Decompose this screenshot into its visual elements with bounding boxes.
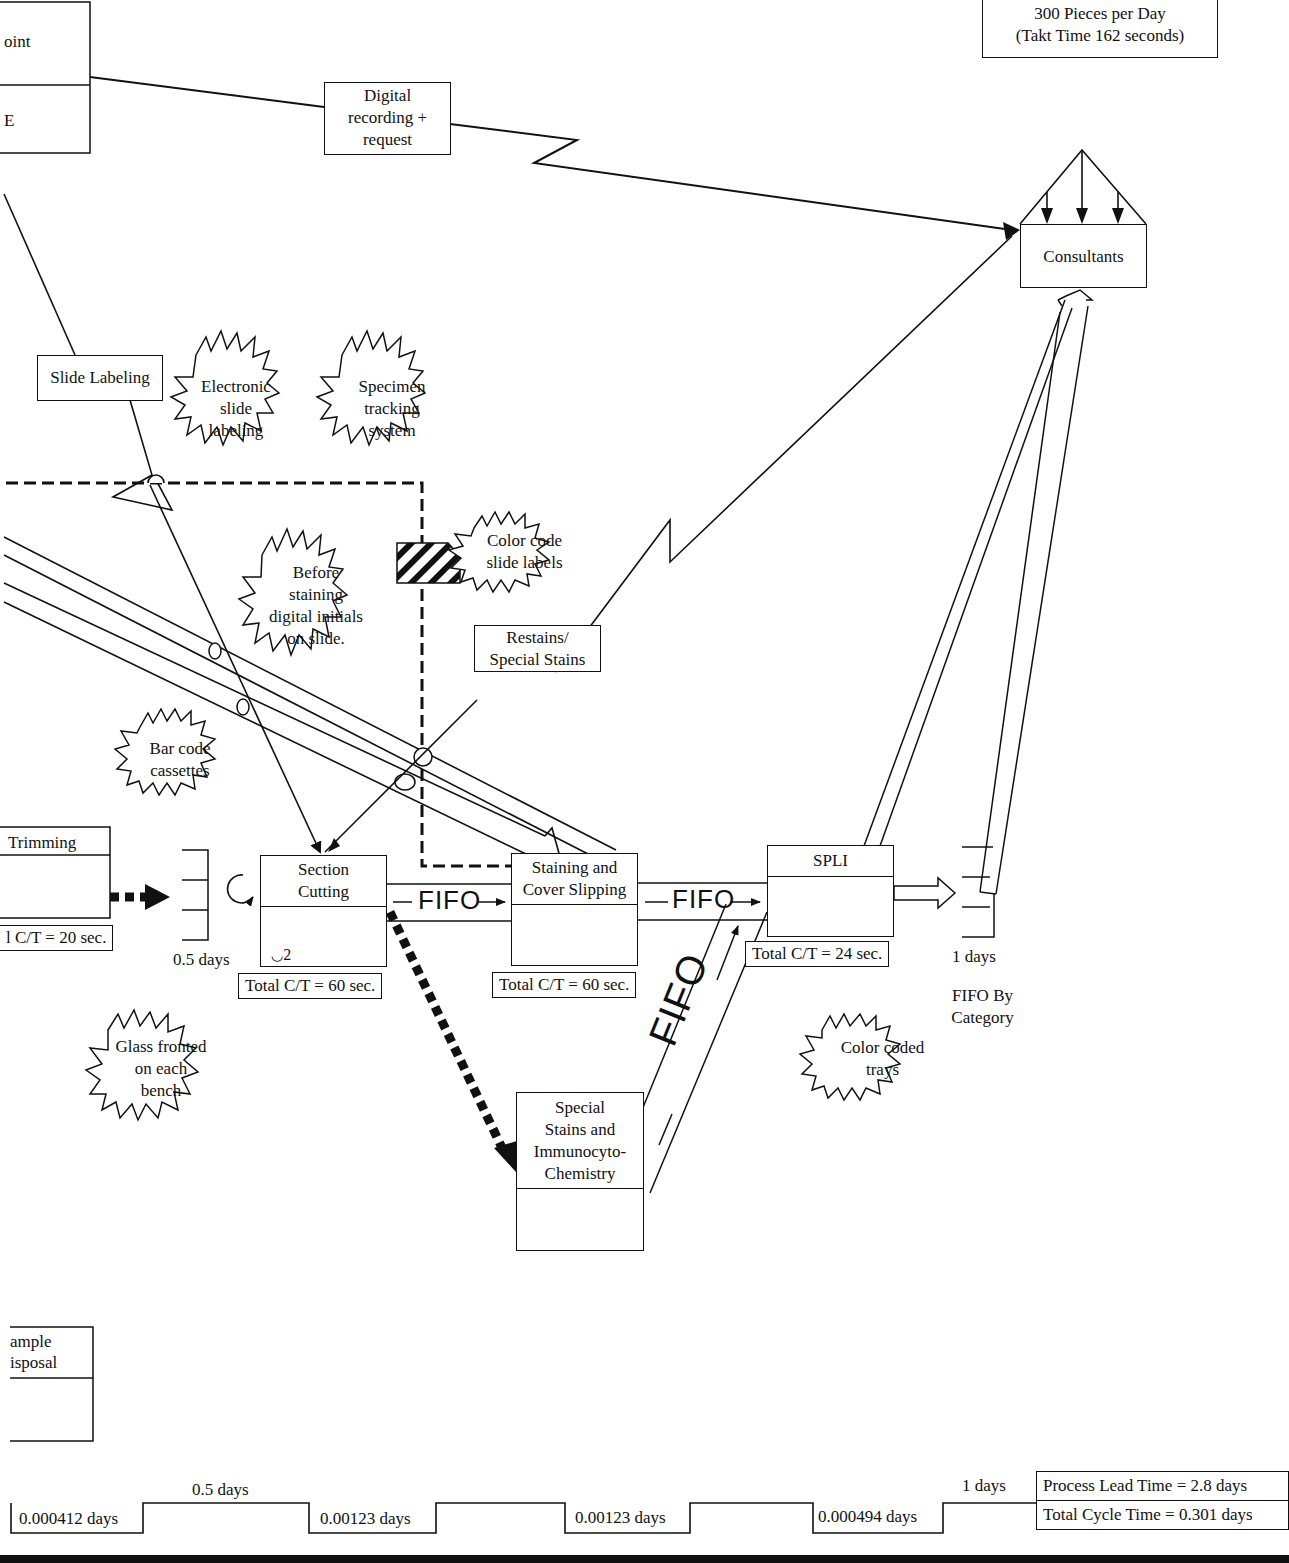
kaizen-line: on slide.	[256, 628, 376, 650]
kaizen-line: system	[352, 420, 432, 442]
timeline-cycle-2: 0.00123 days	[320, 1509, 411, 1529]
partial-box-bottom-label: E	[4, 110, 14, 132]
process-header: Staining and Cover Slipping	[512, 854, 637, 905]
process-staining[interactable]: Staining and Cover Slipping	[511, 853, 638, 966]
kaizen-line: slide	[196, 398, 276, 420]
manual-info-flow-dashed	[6, 483, 515, 866]
restains-line1: Restains/	[475, 627, 600, 649]
kaizen-electronic-slide-labeling: Electronic slide labeling	[196, 376, 276, 442]
process-spli[interactable]: SPLI	[767, 845, 894, 937]
process-title-line3: Immunocyto-	[534, 1141, 627, 1163]
electronic-info-flow-digital	[90, 77, 1012, 230]
process-lead-time: Process Lead Time = 2.8 days	[1037, 1472, 1288, 1500]
inventory-section-cutting: 0.5 days	[173, 950, 230, 970]
roof-arrowheads	[1041, 208, 1124, 224]
timeline-lead-1: 0.5 days	[192, 1480, 249, 1500]
kaizen-line: Color coded	[830, 1037, 935, 1059]
note-line2: Category	[935, 1007, 1030, 1029]
supermarket-shelf-2	[962, 847, 994, 937]
slide-labeling-label: Slide Labeling	[38, 367, 162, 389]
kaizen-line: Specimen	[352, 376, 432, 398]
timeline-cycle-4: 0.000494 days	[818, 1507, 917, 1527]
process-title-line2: Stains and	[545, 1119, 615, 1141]
sample-disposal-line2: isposal	[10, 1352, 57, 1374]
restains-line2: Special Stains	[475, 649, 600, 671]
kaizen-glass-fronted: Glass fronted on each bench	[106, 1036, 216, 1102]
kaizen-color-code-slide-labels: Color code slide labels	[477, 530, 572, 574]
arrowhead-section-cutting	[328, 838, 340, 852]
restains-box[interactable]: Restains/ Special Stains	[474, 625, 601, 672]
process-title-line4: Chemistry	[545, 1163, 616, 1185]
process-title-line1: Section	[298, 859, 349, 881]
section-cutting-cycle-time: Total C/T = 60 sec.	[238, 973, 382, 999]
process-section-cutting[interactable]: Section Cutting ◡2	[260, 855, 387, 967]
operator-icon: ◡2	[271, 946, 291, 964]
kaizen-color-coded-trays: Color coded trays	[830, 1037, 935, 1081]
digital-recording-line2: recording +	[325, 107, 450, 129]
kaizen-line: Color code	[477, 530, 572, 552]
staining-cycle-time: Total C/T = 60 sec.	[492, 972, 636, 998]
kaizen-line: Electronic	[196, 376, 276, 398]
fifo-label-1: FIFO	[418, 885, 481, 916]
partial-box-top-label: oint	[4, 31, 30, 53]
process-header: SPLI	[768, 846, 893, 877]
kaizen-line: bench	[106, 1080, 216, 1102]
total-cycle-time: Total Cycle Time = 0.301 days	[1037, 1500, 1288, 1529]
process-header: Section Cutting	[261, 856, 386, 907]
fifo-label-2: FIFO	[672, 884, 735, 915]
push-arrow-spli-to-consultants	[864, 290, 1092, 894]
operator-count: 2	[283, 946, 291, 963]
consultants-box[interactable]: Consultants	[1020, 224, 1147, 288]
page-bottom-rule	[0, 1555, 1289, 1563]
note-line1: FIFO By	[935, 985, 1030, 1007]
process-title-line1: Staining and	[532, 857, 617, 879]
timeline-lead-2: 1 days	[962, 1476, 1006, 1496]
inventory-after-spli: 1 days	[952, 947, 996, 967]
process-title-line2: Cover Slipping	[523, 879, 626, 901]
kaizen-line: Glass fronted	[106, 1036, 216, 1058]
push-arrow-dotted-trimming	[110, 884, 170, 910]
supermarket-shelf-1	[182, 850, 208, 940]
kaizen-line: Bar code	[140, 738, 220, 760]
timeline-cycle-1: 0.000412 days	[19, 1509, 118, 1529]
push-arrow-dotted-special	[390, 912, 520, 1172]
push-arrow-spli	[894, 878, 955, 908]
slide-labeling-box[interactable]: Slide Labeling	[37, 355, 163, 401]
digital-recording-box[interactable]: Digital recording + request	[324, 82, 451, 155]
spli-cycle-time: Total C/T = 24 sec.	[745, 941, 889, 967]
trimming-label: Trimming	[8, 832, 76, 854]
kaizen-line: staining	[256, 584, 376, 606]
takt-time: (Takt Time 162 seconds)	[983, 25, 1217, 47]
process-title-line1: Special	[555, 1097, 605, 1119]
kaizen-line: digital initials	[256, 606, 376, 628]
kaizen-before-staining: Before staining digital initials on slid…	[256, 562, 376, 650]
kaizen-line: Before	[256, 562, 376, 584]
timeline-summary-box: Process Lead Time = 2.8 days Total Cycle…	[1036, 1471, 1289, 1530]
kaizen-line: trays	[830, 1059, 935, 1081]
timeline-cycle-3: 0.00123 days	[575, 1508, 666, 1528]
pull-circle-arrow	[228, 875, 253, 903]
customer-demand-box: 300 Pieces per Day (Takt Time 162 second…	[982, 0, 1218, 58]
signal-kanban-hatched	[397, 543, 460, 583]
process-title-line1: SPLI	[813, 850, 848, 872]
kaizen-line: cassettes	[140, 760, 220, 782]
digital-recording-line3: request	[325, 129, 450, 151]
fifo-by-category-note: FIFO By Category	[935, 985, 1030, 1029]
kaizen-line: tracking	[352, 398, 432, 420]
process-special-stains[interactable]: Special Stains and Immunocyto- Chemistry	[516, 1092, 644, 1251]
digital-recording-line1: Digital	[325, 85, 450, 107]
kaizen-line: labeling	[196, 420, 276, 442]
kaizen-specimen-tracking-system: Specimen tracking system	[352, 376, 432, 442]
trimming-cycle-time: l C/T = 20 sec.	[0, 925, 113, 951]
kaizen-bar-code-cassettes: Bar code cassettes	[140, 738, 220, 782]
process-title-line2: Cutting	[298, 881, 349, 903]
customer-demand: 300 Pieces per Day	[983, 3, 1217, 25]
kaizen-line: on each	[106, 1058, 216, 1080]
process-header: Special Stains and Immunocyto- Chemistry	[517, 1093, 643, 1189]
kaizen-line: slide labels	[477, 552, 572, 574]
consultants-label: Consultants	[1021, 246, 1146, 268]
sample-disposal-line1: ample	[10, 1331, 52, 1353]
